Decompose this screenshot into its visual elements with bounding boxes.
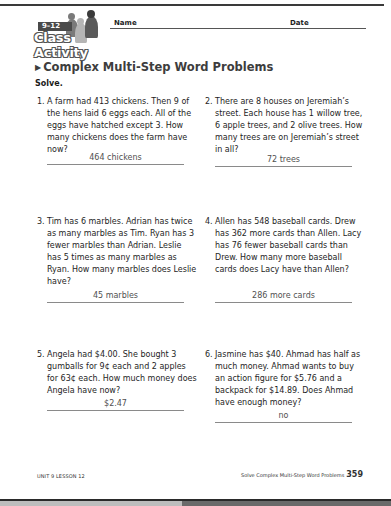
footer-lesson-title: Solve Complex Multi-Step Word Problems35… (241, 470, 363, 479)
name-label: Name (114, 19, 137, 27)
answer-4[interactable]: 286 more cards (215, 290, 352, 303)
answer-2[interactable]: 72 trees (215, 154, 352, 167)
problem-text: There are 8 houses on Jeremiah’s street.… (215, 96, 365, 156)
problem-2: 2. There are 8 houses on Jeremiah’s stre… (205, 96, 365, 156)
logo-text: Class Activity (34, 30, 120, 60)
problem-text: Allen has 548 baseball cards. Drew has 3… (215, 216, 365, 276)
instruction: Solve. (35, 79, 63, 88)
page-title: ▶Complex Multi-Step Word Problems (35, 60, 273, 74)
bottom-strip-right (182, 501, 391, 506)
problem-number: 3. (37, 216, 45, 228)
problem-number: 6. (205, 349, 213, 361)
bottom-strip-left (0, 501, 182, 506)
triangle-right-icon: ▶ (35, 63, 41, 72)
figure-middle-head (77, 18, 84, 25)
problem-text: Angela had $4.00. She bought 3 gumballs … (47, 349, 197, 397)
footer-unit-lesson: UNIT 9 LESSON 12 (37, 473, 85, 479)
answer-5[interactable]: $2.47 (47, 398, 184, 411)
problem-6: 6. Jasmine has $40. Ahmad has half as mu… (205, 349, 365, 409)
answer-3[interactable]: 45 marbles (47, 290, 184, 303)
problem-3: 3. Tim has 6 marbles. Adrian has twice a… (37, 216, 197, 288)
problem-text: Jasmine has $40. Ahmad has half as much … (215, 349, 365, 409)
date-field-line[interactable] (256, 28, 366, 29)
problem-text: A farm had 413 chickens. Then 9 of the h… (47, 96, 197, 156)
problem-5: 5. Angela had $4.00. She bought 3 gumbal… (37, 349, 197, 397)
top-rule (0, 4, 384, 6)
problem-number: 1. (37, 96, 45, 108)
figure-left-head (68, 13, 75, 20)
class-activity-logo: 9–12 Class Activity (30, 10, 120, 44)
problem-number: 5. (37, 349, 45, 361)
figure-right-head (87, 10, 95, 18)
problem-text: Tim has 6 marbles. Adrian has twice as m… (47, 216, 197, 288)
problem-number: 2. (205, 96, 213, 108)
problem-1: 1. A farm had 413 chickens. Then 9 of th… (37, 96, 197, 156)
answer-1[interactable]: 464 chickens (47, 152, 184, 165)
footer-lesson-title-text: Solve Complex Multi-Step Word Problems (241, 472, 344, 478)
date-label: Date (290, 19, 309, 27)
name-field-line[interactable] (110, 28, 256, 29)
page-number: 359 (346, 470, 363, 479)
problem-number: 4. (205, 216, 213, 228)
page-title-text: Complex Multi-Step Word Problems (43, 60, 273, 74)
answer-6[interactable]: no (215, 410, 352, 423)
problem-4: 4. Allen has 548 baseball cards. Drew ha… (205, 216, 365, 276)
